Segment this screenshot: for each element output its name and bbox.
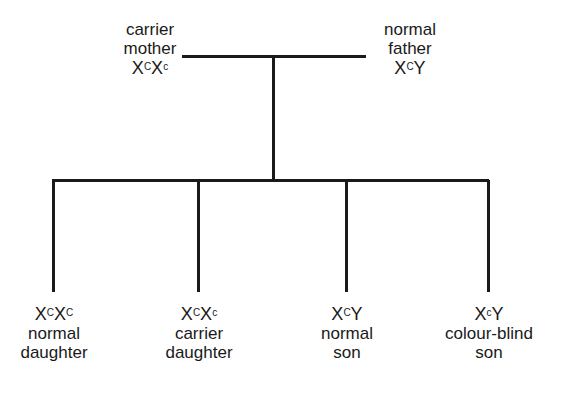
- mother-role: carrier: [100, 20, 200, 39]
- father-genotype: XCY: [360, 58, 460, 78]
- father-relation: father: [360, 39, 460, 58]
- child-1-relation: daughter: [0, 343, 114, 362]
- child-2-genotype: XCXc: [139, 304, 259, 324]
- child-2-relation: daughter: [139, 343, 259, 362]
- child-2-label: XCXc carrier daughter: [139, 304, 259, 362]
- child-4-genotype: XcY: [424, 304, 554, 324]
- sibship-line: [52, 179, 489, 182]
- descent-line: [272, 56, 275, 181]
- mother-relation: mother: [100, 39, 200, 58]
- father-role: normal: [360, 20, 460, 39]
- child-1-genotype: XCXC: [0, 304, 114, 324]
- child-drop-line-4: [487, 180, 490, 292]
- child-3-genotype: XCY: [287, 304, 407, 324]
- child-drop-line-2: [197, 180, 200, 292]
- child-4-label: XcY colour-blind son: [424, 304, 554, 362]
- child-3-phenotype: normal: [287, 324, 407, 343]
- child-1-phenotype: normal: [0, 324, 114, 343]
- child-4-relation: son: [424, 343, 554, 362]
- child-drop-line-3: [345, 180, 348, 292]
- child-2-phenotype: carrier: [139, 324, 259, 343]
- mother-genotype: XCXc: [100, 58, 200, 78]
- child-1-label: XCXC normal daughter: [0, 304, 114, 362]
- child-4-phenotype: colour-blind: [424, 324, 554, 343]
- father-label: normal father XCY: [360, 20, 460, 78]
- child-3-relation: son: [287, 343, 407, 362]
- mother-label: carrier mother XCXc: [100, 20, 200, 78]
- child-3-label: XCY normal son: [287, 304, 407, 362]
- child-drop-line-1: [52, 180, 55, 292]
